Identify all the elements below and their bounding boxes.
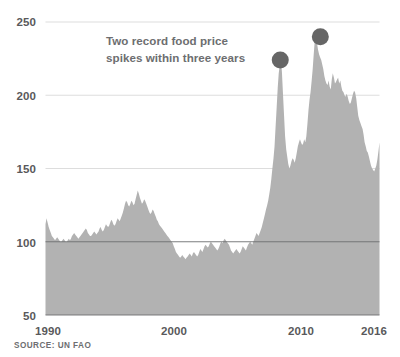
- annotation-line-1: Two record food price: [106, 32, 286, 49]
- spike-marker-2: [312, 28, 329, 45]
- y-tick-250: 250: [4, 16, 36, 28]
- annotation-line-2: spikes within three years: [106, 49, 286, 66]
- area-series-food-price-index: [46, 37, 380, 315]
- x-tick-2016: 2016: [347, 325, 400, 337]
- y-tick-50: 50: [4, 310, 36, 322]
- x-tick-2010: 2010: [274, 325, 328, 337]
- x-tick-2000: 2000: [147, 325, 201, 337]
- food-price-index-chart: 250 200 150 100 50 1990 2000 2010 2016 T…: [0, 0, 400, 357]
- chart-annotation: Two record food price spikes within thre…: [106, 32, 286, 66]
- y-tick-200: 200: [4, 90, 36, 102]
- source-note: SOURCE: UN FAO: [14, 341, 91, 350]
- y-tick-150: 150: [4, 163, 36, 175]
- x-tick-1990: 1990: [21, 325, 75, 337]
- y-tick-100: 100: [4, 237, 36, 249]
